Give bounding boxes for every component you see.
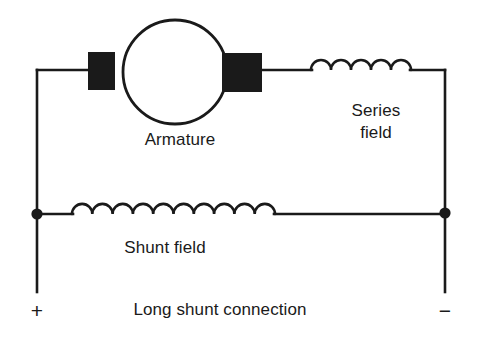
node-left-dot bbox=[31, 208, 42, 219]
shunt-field-label: Shunt field bbox=[0, 238, 330, 257]
brush-left-rect bbox=[88, 52, 115, 90]
circuit-diagram-page: Armature Series field Shunt field Long s… bbox=[0, 0, 481, 341]
negative-terminal-sign: − bbox=[430, 300, 460, 321]
series-field-label: Series field bbox=[320, 100, 432, 144]
series-field-label-line2: field bbox=[360, 123, 392, 142]
armature-label: Armature bbox=[0, 130, 360, 149]
brush-right-rect bbox=[222, 53, 262, 92]
node-right-dot bbox=[439, 207, 450, 218]
armature-circle bbox=[123, 20, 227, 124]
positive-terminal-sign: + bbox=[22, 300, 52, 321]
diagram-caption: Long shunt connection bbox=[0, 300, 440, 319]
series-field-label-line1: Series bbox=[352, 101, 401, 120]
series-field-coil bbox=[311, 60, 411, 70]
shunt-field-coil bbox=[72, 204, 275, 214]
circuit-schematic-svg bbox=[0, 0, 481, 341]
